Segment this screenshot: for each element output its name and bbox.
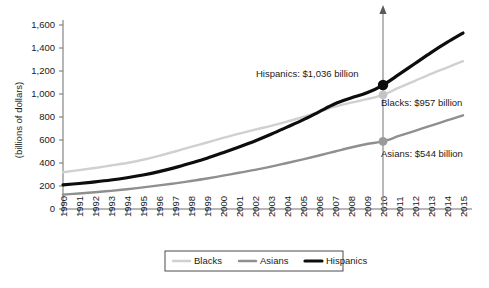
axes xyxy=(63,20,472,209)
x-tick-label: 1996 xyxy=(154,196,165,217)
x-tick-label: 1998 xyxy=(186,196,197,217)
x-tick-label: 1995 xyxy=(138,196,149,217)
marker-arrow-head xyxy=(379,5,386,14)
y-tick-label: 1,400 xyxy=(31,42,55,53)
x-tick-label: 1991 xyxy=(74,196,85,217)
y-tick-label: 200 xyxy=(39,180,55,191)
x-tick-label: 2002 xyxy=(250,196,261,217)
x-tick-label: 1990 xyxy=(58,196,69,217)
x-tick-label: 2013 xyxy=(426,196,437,217)
x-tick-label: 2015 xyxy=(458,196,469,217)
x-tick-label: 2011 xyxy=(394,197,405,217)
annotation-label-hispanics: Hispanics: $1,036 billion xyxy=(256,68,358,79)
x-tick-label: 2004 xyxy=(282,196,293,217)
x-tick-label: 1997 xyxy=(170,196,181,217)
legend-label-asians: Asians xyxy=(260,255,289,266)
chart-canvas: (billions of dollars) 02004006008001,000… xyxy=(0,0,489,288)
x-tick-label: 2008 xyxy=(346,196,357,217)
y-tick-label: 1,000 xyxy=(31,88,55,99)
line-chart: (billions of dollars) 02004006008001,000… xyxy=(0,0,489,288)
x-tick-label: 1992 xyxy=(90,196,101,217)
y-tick-label: 800 xyxy=(39,111,55,122)
x-tick-label: 2005 xyxy=(298,196,309,217)
x-tick-label: 2001 xyxy=(234,196,245,217)
data-point-marker-hispanics xyxy=(378,80,388,90)
y-tick-label: 0 xyxy=(50,203,55,214)
y-tick-label: 400 xyxy=(39,157,55,168)
x-tick-label: 2000 xyxy=(218,196,229,217)
x-tick-label: 2009 xyxy=(362,196,373,217)
x-tick-label: 2014 xyxy=(442,196,453,217)
x-tick-label: 2012 xyxy=(410,196,421,217)
x-tick-label: 2006 xyxy=(314,196,325,217)
legend-label-blacks: Blacks xyxy=(194,255,222,266)
y-tick-label: 1,200 xyxy=(31,65,55,76)
x-tick-label: 2003 xyxy=(266,196,277,217)
data-point-marker-asians xyxy=(379,137,388,146)
y-tick-label: 600 xyxy=(39,134,55,145)
x-tick-label: 1999 xyxy=(202,196,213,217)
x-tick-label: 1994 xyxy=(122,196,133,217)
legend: BlacksAsiansHispanics xyxy=(165,251,367,271)
y-axis-title: (billions of dollars) xyxy=(13,82,24,159)
legend-label-hispanics: Hispanics xyxy=(326,255,367,266)
y-tick-label: 1,600 xyxy=(31,19,55,30)
x-tick-label: 1993 xyxy=(106,196,117,217)
series-lines xyxy=(63,33,463,195)
annotation-label-asians: Asians: $544 billion xyxy=(381,148,463,159)
x-axis-ticks: 1990199119921993199419951996199719981999… xyxy=(58,196,469,217)
y-axis-ticks: 02004006008001,0001,2001,4001,600 xyxy=(31,19,63,214)
y-axis-title-text: (billions of dollars) xyxy=(13,82,24,159)
series-line-hispanics xyxy=(63,33,463,185)
x-tick-label: 2007 xyxy=(330,196,341,217)
annotation-label-blacks: Blacks: $957 billion xyxy=(381,97,462,108)
